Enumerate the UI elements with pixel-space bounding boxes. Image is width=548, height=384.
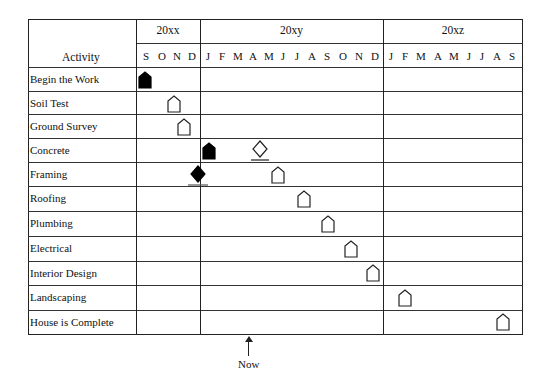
activity-label: Electrical [30,242,72,254]
month-label: J [290,50,304,62]
month-label: J [462,50,476,62]
month-label: J [276,50,290,62]
now-arrow-head-icon [245,336,253,342]
month-label: F [215,50,229,62]
month-label: A [431,50,445,62]
header-bottom-line [28,67,523,68]
month-label: S [505,50,519,62]
open-pentagon-icon [344,240,358,258]
header-year-divider [136,43,523,44]
filled-pentagon-icon [138,71,152,89]
row-line [28,114,523,115]
month-label: S [320,50,334,62]
open-pentagon-icon [271,166,285,184]
year-label-20xy: 20xy [200,24,383,36]
month-label: D [185,50,199,62]
month-label: J [384,50,398,62]
open-diamond-underlined-icon [250,140,270,162]
month-label: F [398,50,412,62]
row-line [28,211,523,212]
activity-label: Landscaping [30,291,86,303]
month-label: N [352,50,366,62]
row-line [28,186,523,187]
filled-pentagon-icon [202,142,216,160]
filled-diamond-underlined-icon [188,165,208,187]
month-label: A [246,50,260,62]
month-label: D [368,50,382,62]
year-label-20xz: 20xz [383,24,523,36]
month-label: M [231,50,245,62]
activity-label: Interior Design [30,267,97,279]
open-pentagon-icon [496,313,510,331]
month-label: A [305,50,319,62]
open-pentagon-icon [177,118,191,136]
month-label: N [170,50,184,62]
now-label: Now [238,358,259,370]
activity-label: Framing [30,168,67,180]
month-label: O [155,50,169,62]
activity-label: House is Complete [30,316,114,328]
now-arrow-icon [248,338,249,356]
open-pentagon-icon [297,190,311,208]
month-label: J [475,50,489,62]
activity-label: Concrete [30,144,70,156]
activity-label: Ground Survey [30,120,98,132]
open-pentagon-icon [398,289,412,307]
year-divider-20xz [383,19,384,335]
row-line [28,162,523,163]
open-pentagon-icon [167,95,181,113]
row-line [28,236,523,237]
activity-label: Plumbing [30,217,73,229]
month-label: A [490,50,504,62]
row-line [28,310,523,311]
activity-header: Activity [62,51,100,63]
month-label: M [262,50,276,62]
year-label-20xx: 20xx [136,24,200,36]
row-line [28,261,523,262]
month-label: M [447,50,461,62]
month-label: M [414,50,428,62]
row-line [28,138,523,139]
activity-column-divider [136,19,137,335]
activity-label: Roofing [30,192,66,204]
activity-label: Begin the Work [30,73,99,85]
month-label: S [139,50,153,62]
row-line [28,91,523,92]
month-label: J [201,50,215,62]
row-line [28,285,523,286]
open-pentagon-icon [366,264,380,282]
open-pentagon-icon [321,215,335,233]
activity-label: Soil Test [30,97,68,109]
month-label: O [336,50,350,62]
